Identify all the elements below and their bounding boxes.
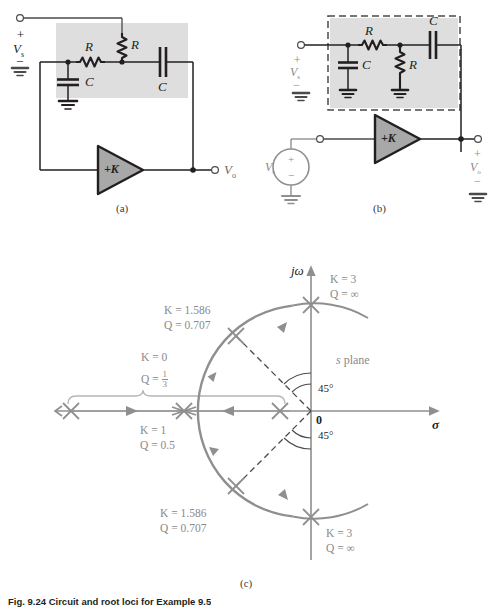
annotation-k1-q: Q = 0.5: [140, 440, 175, 452]
circuit-a-resistor-vertical-label: R: [131, 38, 139, 51]
root-locus-group: [55, 270, 435, 560]
circuit-a-amplifier-label: +K: [104, 163, 119, 175]
locus-arc-arrow-upper: [208, 372, 217, 382]
panel-label-a: (a): [116, 203, 128, 214]
angle-arc-upper-outer: [284, 373, 311, 384]
annotation-k1586-lower-k: K = 1.586: [160, 508, 206, 520]
circuit-a-output-label: Vo: [224, 163, 236, 180]
ground-symbol-input-b: [293, 93, 309, 101]
annotation-k0-q: Q = 13: [141, 370, 168, 390]
circuit-b-source-label: Vs: [265, 161, 275, 176]
circuit-b-resistor-series-label: R: [365, 24, 373, 37]
source-terminal-b: [317, 136, 324, 143]
locus-arc-lower-tail: [293, 504, 368, 519]
circuit-b-minus-sign: −: [293, 79, 300, 91]
circuit-a-capacitor-shunt-label: C: [85, 75, 94, 88]
axis-label-real: σ: [432, 418, 439, 431]
annotation-k1586-upper-q: Q = 0.707: [164, 320, 210, 332]
circuit-b-group: [273, 16, 486, 204]
circuit-b-output-plus: +: [474, 148, 481, 160]
annotation-k3-lower-q: Q = ∞: [326, 543, 355, 555]
locus-arc-arrow-lower2: [278, 489, 288, 500]
angle-label-upper: 45°: [318, 383, 333, 394]
angle-label-lower: 45°: [318, 430, 333, 441]
circuit-b-amplifier-label: +K: [381, 132, 396, 144]
s-plane-label: s plane: [336, 354, 370, 366]
origin-label: 0: [316, 414, 322, 426]
node-dot-b-output: [458, 136, 464, 142]
figure-9-24: + Vs − R R C C +K Vo (a) + Vs − R C C R …: [0, 0, 494, 607]
locus-arc-arrow-upper2: [277, 322, 287, 333]
circuit-b-capacitor-series-label: C: [429, 14, 438, 27]
node-dot-a-center: [119, 59, 124, 64]
angle-arc-lower-inner: [292, 430, 311, 438]
annotation-k1-k: K = 1: [140, 425, 166, 437]
brace-pole-region: [68, 390, 285, 404]
annotation-k1586-upper-k: K = 1.586: [164, 305, 210, 317]
locus-arrow-right: [126, 406, 138, 416]
annotation-k0-k: K = 0: [141, 352, 167, 364]
ground-symbol-a-cap: [59, 101, 77, 109]
locus-arrow-left: [222, 406, 234, 416]
figure-drawing: [0, 0, 494, 607]
fraction-one-third: 13: [162, 370, 169, 390]
circuit-b-source-minus: −: [288, 170, 294, 181]
output-terminal-b: [475, 136, 482, 143]
circuit-a-minus-sign: −: [16, 55, 23, 68]
circuit-b-source-plus: +: [288, 154, 294, 165]
annotation-k3-lower-k: K = 3: [326, 528, 352, 540]
circuit-a-capacitor-series-label: C: [158, 80, 167, 93]
output-terminal-a: [212, 167, 219, 174]
dashed-line-45-upper: [236, 336, 311, 411]
axis-label-imaginary: jω: [291, 264, 304, 277]
annotation-k1586-lower-q: Q = 0.707: [160, 523, 206, 535]
angle-arc-upper-inner: [292, 384, 311, 392]
panel-label-b: (b): [373, 203, 386, 214]
input-terminal-b: [298, 42, 305, 49]
locus-arc-upper-tail: [293, 303, 368, 318]
circuit-b-resistor-shunt-label: R: [409, 58, 417, 71]
ground-symbol-b-source: [282, 196, 300, 204]
circuit-b-capacitor-shunt-label: C: [362, 58, 371, 71]
circuit-b-output-minus: −: [474, 175, 481, 187]
ground-symbol-input-a: [12, 68, 28, 76]
panel-label-c: (c): [240, 578, 252, 589]
node-dot-a-output: [190, 167, 196, 173]
dashed-line-45-lower: [236, 411, 311, 486]
annotation-k3-upper-q: Q = ∞: [330, 289, 359, 301]
ground-symbol-b-output: [470, 194, 486, 202]
locus-arc-arrow-lower: [209, 447, 219, 456]
annotation-k3-upper-k: K = 3: [330, 274, 356, 286]
circuit-a-resistor-horizontal-label: R: [85, 40, 93, 53]
input-terminal-a: [17, 15, 24, 22]
figure-caption: Fig. 9.24 Circuit and root loci for Exam…: [8, 596, 211, 607]
circuit-a-plus-sign: +: [16, 28, 25, 41]
angle-arc-lower-outer: [284, 438, 311, 449]
